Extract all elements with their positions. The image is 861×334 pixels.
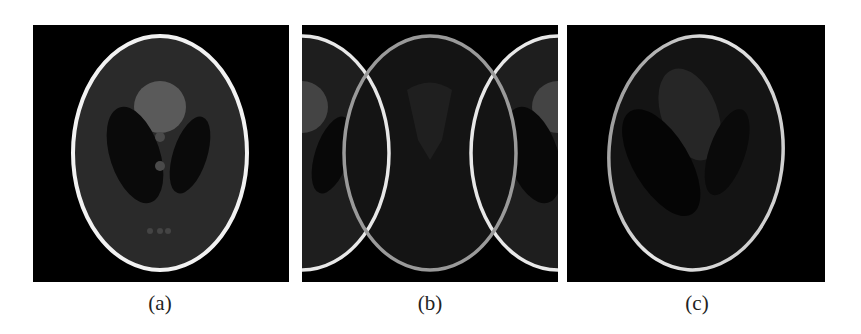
small-circle-lower (155, 161, 165, 171)
caption-b: (b) (400, 291, 460, 315)
small-circle-upper (155, 132, 165, 142)
phantom-aliased-graphic (302, 25, 558, 282)
caption-c: (c) (667, 291, 727, 315)
panel-a-image (33, 25, 289, 282)
dot-left (147, 228, 153, 234)
phantom-original-graphic (33, 25, 289, 282)
dot-right (165, 228, 171, 234)
dot-center (157, 228, 163, 234)
phantom-rotated-graphic (567, 25, 825, 282)
figure: (a) (b) (0, 0, 861, 334)
caption-a: (a) (130, 291, 190, 315)
panel-c-image (567, 25, 825, 282)
panel-b-image (302, 25, 558, 282)
